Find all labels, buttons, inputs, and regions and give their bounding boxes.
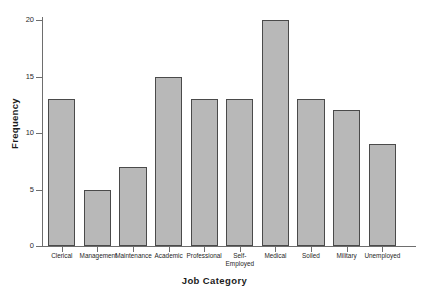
- y-axis-tick-label: 10: [14, 129, 34, 137]
- bar: [226, 99, 253, 246]
- x-axis-category-label: Military: [329, 252, 365, 260]
- x-axis-category-label: Academic: [151, 252, 187, 260]
- bar: [155, 77, 182, 247]
- y-axis-tick-label: 15: [14, 73, 34, 81]
- y-axis-tick-label: 20: [14, 16, 34, 24]
- y-axis-tick-mark: [36, 190, 42, 191]
- bar: [369, 144, 396, 246]
- x-axis-category-label: Management: [80, 252, 116, 260]
- x-axis-title: Job Category: [0, 275, 429, 286]
- bar: [297, 99, 324, 246]
- bar: [119, 167, 146, 246]
- bar-chart-figure: Frequency 05101520 ClericalManagementMai…: [0, 0, 429, 297]
- bar: [191, 99, 218, 246]
- x-axis-category-label: Professional: [186, 252, 222, 260]
- bar: [48, 99, 75, 246]
- y-axis-line: [42, 17, 43, 247]
- bar: [84, 190, 111, 247]
- x-axis-category-label: Self- Employed: [222, 252, 258, 268]
- bar: [333, 110, 360, 246]
- x-axis-category-label: Maintenance: [115, 252, 151, 260]
- y-axis-tick-mark: [36, 133, 42, 134]
- y-axis-tick-mark: [36, 246, 42, 247]
- y-axis-tick-label: 0: [14, 242, 34, 250]
- y-axis-title: Frequency: [9, 79, 20, 169]
- x-axis-category-label: Clerical: [44, 252, 80, 260]
- y-axis-tick-mark: [36, 20, 42, 21]
- x-axis-category-label: Medical: [258, 252, 294, 260]
- x-axis-category-label: Soiled: [293, 252, 329, 260]
- y-axis-tick-label: 5: [14, 186, 34, 194]
- y-axis-tick-mark: [36, 77, 42, 78]
- bar: [262, 20, 289, 246]
- x-axis-category-label: Unemployed: [364, 252, 400, 260]
